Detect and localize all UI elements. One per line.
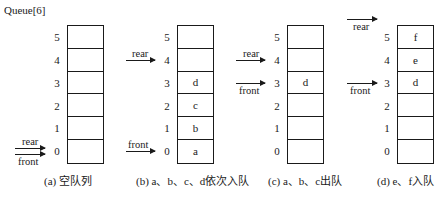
queue-cell: [288, 94, 323, 117]
front-arrow-icon: [15, 154, 45, 155]
panel-caption: (c) a、b、c出队: [268, 172, 342, 188]
front-arrow-icon: [126, 151, 155, 152]
index-label: 2: [52, 100, 62, 112]
index-label: 5: [382, 31, 392, 43]
queue-cell: [398, 94, 433, 117]
queue-cell: f: [398, 26, 433, 49]
queue-title: Queue[6]: [4, 4, 46, 16]
index-label: 3: [382, 77, 392, 89]
queue-cell: [178, 26, 213, 49]
index-label: 2: [382, 100, 392, 112]
index-label: 0: [52, 145, 62, 157]
queue-cell: b: [178, 117, 213, 140]
rear-label: rear: [243, 48, 259, 59]
index-label: 3: [52, 77, 62, 89]
queue-array: d c b a: [177, 25, 214, 164]
index-label: 3: [162, 77, 172, 89]
queue-cell: [398, 117, 433, 140]
index-label: 5: [162, 31, 172, 43]
rear-arrow-icon: [126, 60, 155, 61]
index-label: 0: [382, 145, 392, 157]
queue-cell: [68, 117, 103, 140]
index-label: 5: [52, 31, 62, 43]
panel-caption: (b) a、b、c、d依次入队: [136, 172, 249, 188]
rear-label: rear: [22, 136, 38, 147]
index-label: 4: [382, 54, 392, 66]
rear-arrow-icon: [236, 60, 265, 61]
index-label: 1: [162, 122, 172, 134]
queue-cell: [68, 94, 103, 117]
index-label: 1: [52, 122, 62, 134]
index-label: 3: [272, 77, 282, 89]
queue-cell: d: [288, 72, 323, 95]
front-arrow-icon: [347, 83, 377, 84]
rear-label: rear: [132, 48, 148, 59]
queue-array: d: [287, 25, 324, 164]
queue-cell: [288, 49, 323, 72]
queue-cell: [288, 26, 323, 49]
index-label: 2: [272, 100, 282, 112]
rear-arrow-icon: [347, 19, 377, 20]
rear-arrow-icon: [15, 148, 45, 149]
queue-cell: d: [178, 72, 213, 95]
queue-cell: e: [398, 49, 433, 72]
queue-cell: [68, 72, 103, 95]
queue-cell: [288, 140, 323, 163]
queue-cell: [398, 140, 433, 163]
index-label: 4: [272, 54, 282, 66]
index-label: 5: [272, 31, 282, 43]
rear-label: rear: [353, 21, 369, 32]
front-label: front: [350, 85, 370, 96]
queue-cell: c: [178, 94, 213, 117]
queue-array: [67, 25, 104, 164]
index-label: 0: [272, 145, 282, 157]
queue-cell: d: [398, 72, 433, 95]
front-label: front: [239, 85, 259, 96]
queue-cell: [68, 140, 103, 163]
panel-caption: (a) 空队列: [44, 172, 92, 188]
index-label: 1: [382, 122, 392, 134]
index-label: 2: [162, 100, 172, 112]
queue-cell: [288, 117, 323, 140]
index-label: 4: [52, 54, 62, 66]
front-label: front: [18, 156, 38, 167]
queue-cell: [178, 49, 213, 72]
panel-caption: (d) e、f入队: [377, 172, 434, 188]
queue-cell: [68, 26, 103, 49]
index-label: 0: [162, 145, 172, 157]
index-label: 1: [272, 122, 282, 134]
queue-cell: [68, 49, 103, 72]
queue-cell: a: [178, 140, 213, 163]
queue-array: f e d: [397, 25, 434, 164]
front-arrow-icon: [236, 83, 265, 84]
front-label: front: [128, 139, 148, 150]
index-label: 4: [162, 54, 172, 66]
